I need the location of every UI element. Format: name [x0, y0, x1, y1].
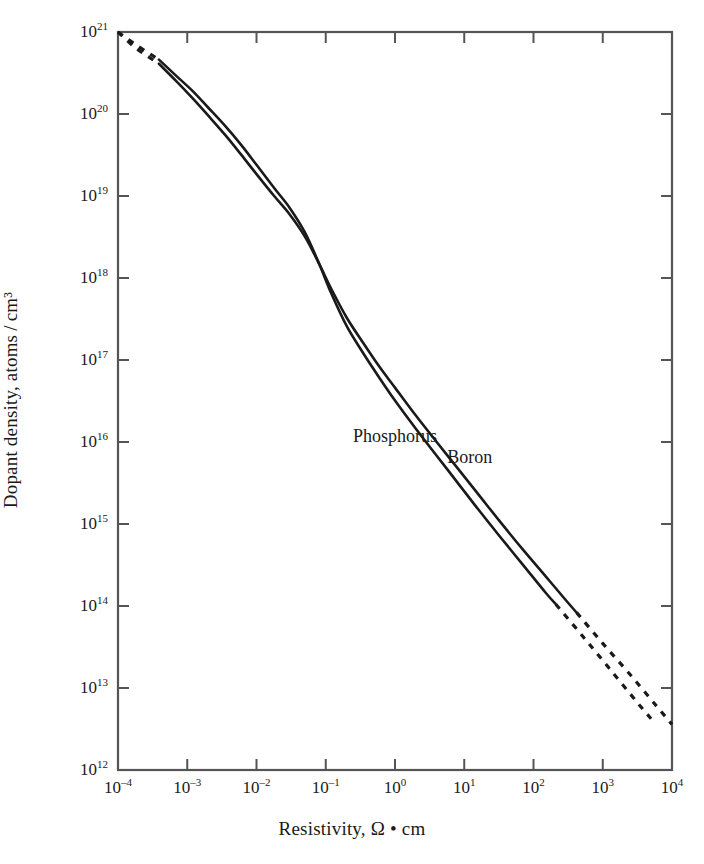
y-tick-label: 1019: [80, 186, 108, 206]
y-tick-label: 1020: [80, 104, 108, 124]
dopant-density-resistivity-chart: Dopant density, atoms / cm³ Resistivity,…: [0, 0, 704, 864]
x-tick-label: 10–1: [312, 778, 340, 798]
x-axis-title: Resistivity, Ω • cm: [0, 818, 704, 840]
curve-label-phosphorus: Phosphorus: [353, 425, 437, 446]
y-tick-label: 1021: [80, 22, 108, 42]
y-tick-label: 1017: [80, 350, 108, 370]
y-tick-label: 1014: [80, 596, 108, 616]
y-tick-label: 1015: [80, 514, 108, 534]
x-tick-label: 103: [592, 778, 615, 798]
y-tick-label: 1013: [80, 678, 108, 698]
data-curves: [118, 32, 672, 724]
y-tick-label: 1016: [80, 432, 108, 452]
x-tick-label: 101: [453, 778, 476, 798]
x-tick-label: 10–4: [104, 778, 132, 798]
x-tick-label: 10–3: [173, 778, 201, 798]
x-tick-label: 10–2: [243, 778, 271, 798]
x-tick-label: 102: [522, 778, 545, 798]
y-tick-label: 1018: [80, 268, 108, 288]
y-tick-label: 1012: [80, 760, 108, 780]
x-tick-label: 100: [384, 778, 407, 798]
curve-boron: [118, 32, 672, 724]
curve-label-boron: Boron: [447, 447, 492, 468]
x-tick-label: 104: [661, 778, 684, 798]
